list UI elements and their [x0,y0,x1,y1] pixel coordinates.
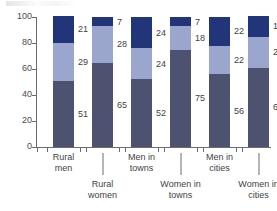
bar-rural-women: 65287 [92,17,113,147]
bar-women-in-towns: 75187 [170,17,191,147]
y-tick-mark [32,147,36,148]
category-label-line: cities [238,190,277,201]
y-tick-label: 0 [27,141,32,152]
bar-segment-value: 24 [156,28,166,38]
x-tick-mark [203,148,204,152]
bar-segment-middle: 22 [209,46,230,75]
bar-men-in-towns: 522424 [131,17,152,147]
stacked-bar-chart: 020406080100 512921652875224247518756222… [0,0,277,211]
bar-segment-top: 7 [92,17,113,26]
bar-segment-value: 51 [78,109,88,119]
bar-women-in-cities: 612416 [248,17,269,147]
bar-segment-bottom: 51 [53,81,74,147]
x-tick-mark [86,148,87,152]
bar-segment-value: 7 [195,17,200,27]
x-tick-mark [158,148,159,152]
bar-segment-value: 56 [234,106,244,116]
y-tick-label: 60 [22,63,32,74]
category-label-stem [258,153,259,175]
category-label-line: Women in [160,179,200,190]
y-tick-label: 100 [17,11,32,22]
y-tick-label: 80 [22,37,32,48]
bar-segment-value: 22 [234,55,244,65]
bar-segment-value: 75 [195,93,205,103]
x-tick-mark [236,148,237,152]
bar-rural-men: 512921 [53,17,74,147]
bar-men-in-cities: 562222 [209,17,230,147]
category-label-line: Men in [206,152,233,163]
category-label-line: towns [128,163,155,174]
x-tick-mark [119,148,120,152]
bar-segment-bottom: 56 [209,74,230,147]
category-label-line: Women in [238,179,277,190]
category-label-stem [180,153,181,175]
category-label-line: Rural [88,179,117,190]
y-axis-line [36,17,37,148]
bar-segment-value: 24 [273,47,277,57]
plot-area: 020406080100 512921652875224247518756222… [36,17,271,148]
bar-segment-value: 65 [117,100,127,110]
bar-segment-top: 22 [209,17,230,46]
category-label-stem [102,153,103,175]
category-label-men-in-cities: Men incities [206,152,233,174]
category-label-women-in-towns: Women intowns [160,179,200,201]
bar-segment-bottom: 75 [170,50,191,148]
bar-segment-value: 61 [273,102,277,112]
bar-segment-value: 28 [117,39,127,49]
category-label-line: women [88,190,117,201]
category-label-rural-women: Ruralwomen [88,179,117,201]
bar-segment-value: 21 [78,24,88,34]
x-tick-mark [125,148,126,152]
bar-segment-middle: 24 [131,48,152,79]
bar-segment-value: 22 [234,26,244,36]
bar-segment-middle: 29 [53,43,74,81]
x-tick-mark [242,148,243,152]
bar-segment-middle: 18 [170,26,191,49]
category-label-rural-men: Ruralmen [53,152,75,174]
bar-segment-bottom: 65 [92,63,113,148]
bar-segment-top: 21 [53,16,74,43]
bar-segment-top: 16 [248,16,269,37]
x-tick-mark [164,148,165,152]
x-tick-mark [80,148,81,152]
category-label-line: Rural [53,152,75,163]
bar-segment-top: 24 [131,17,152,48]
bar-segment-value: 16 [273,21,277,31]
bar-segment-middle: 28 [92,26,113,62]
category-label-women-in-cities: Women incities [238,179,277,201]
bar-segment-bottom: 52 [131,79,152,147]
y-tick-label: 40 [22,89,32,100]
bar-segment-top: 7 [170,17,191,26]
y-tick-mark [32,43,36,44]
y-tick-mark [32,69,36,70]
category-label-line: towns [160,190,200,201]
bar-segment-bottom: 61 [248,68,269,147]
bar-segment-value: 29 [78,57,88,67]
scan-artifact [6,1,76,6]
bar-segment-middle: 24 [248,37,269,68]
x-tick-mark [37,148,38,152]
y-tick-mark [32,17,36,18]
x-tick-mark [197,148,198,152]
y-tick-label: 20 [22,115,32,126]
category-label-line: men [53,163,75,174]
bar-segment-value: 24 [156,59,166,69]
bar-segment-value: 7 [117,17,122,27]
bar-segment-value: 52 [156,108,166,118]
category-label-men-in-towns: Men intowns [128,152,155,174]
x-tick-mark [47,148,48,152]
category-label-line: cities [206,163,233,174]
category-label-line: Men in [128,152,155,163]
bar-segment-value: 18 [195,33,205,43]
y-tick-mark [32,95,36,96]
y-tick-mark [32,121,36,122]
